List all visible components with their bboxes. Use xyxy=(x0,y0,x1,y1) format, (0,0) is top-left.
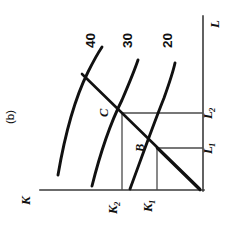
l-axis-label: L xyxy=(207,20,222,29)
panel-label: (b) xyxy=(4,110,16,124)
k-axis-label-group: K xyxy=(18,195,33,206)
isoquant-label-20-group: 20 xyxy=(160,33,175,48)
isoquant-label-40: 40 xyxy=(83,33,98,48)
k1-tick-group: K 1 xyxy=(140,200,157,213)
panel-label-group: (b) xyxy=(4,110,16,124)
point-label-b: B xyxy=(133,144,147,153)
isoquant-curve-40 xyxy=(58,47,102,175)
k1-tick-subscript: 1 xyxy=(147,200,157,204)
k2-tick-subscript: 2 xyxy=(112,201,122,207)
isoquant-label-40-group: 40 xyxy=(83,33,98,48)
l1-tick-subscript: 1 xyxy=(207,143,217,147)
k-axis-label: K xyxy=(18,195,33,206)
isoquant-label-30-group: 30 xyxy=(120,33,135,48)
point-label-b-group: B xyxy=(133,144,147,153)
point-label-c: C xyxy=(97,108,111,117)
figure-container: K L K 2 K 1 L 2 L 1 40 30 xyxy=(0,0,236,236)
isocost-line-through-b xyxy=(157,148,200,190)
isoquant-isocost-diagram: K L K 2 K 1 L 2 L 1 40 30 xyxy=(0,0,236,236)
isoquant-label-20: 20 xyxy=(160,33,175,48)
l-axis-label-group: L xyxy=(207,20,222,29)
point-label-c-group: C xyxy=(97,108,111,117)
k2-tick-group: K 2 xyxy=(105,201,122,215)
isoquant-label-30: 30 xyxy=(120,33,135,48)
l2-tick-subscript: 2 xyxy=(207,107,217,113)
